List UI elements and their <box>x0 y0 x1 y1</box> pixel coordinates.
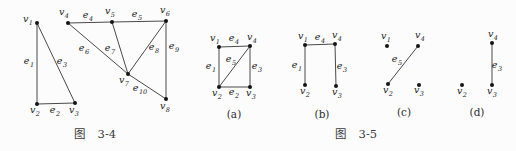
fig-3-5-vertex-v3 <box>417 83 421 87</box>
fig-3-5-vertex-v2 <box>460 83 464 87</box>
fig-3-5-vertex-v3 <box>248 85 252 89</box>
fig-3-5-vertex-v4 <box>248 44 252 48</box>
fig-3-4-edge-e3 <box>37 23 75 103</box>
fig-3-4-edge-e4 <box>68 22 112 23</box>
fig-3-4-edge-e8 <box>128 21 166 74</box>
fig-3-4-vertex-v6 <box>164 19 168 23</box>
fig-3-5-edge-e4 <box>219 46 250 47</box>
fig-3-5-vertex-v2 <box>303 83 307 87</box>
fig-3-5-vertex-v1 <box>217 45 221 49</box>
fig-3-5-vertex-v2 <box>386 82 390 86</box>
fig-3-4-edge-e10 <box>128 74 166 99</box>
fig-3-4-edge-e2 <box>37 103 75 104</box>
fig-3-4-edge-e6 <box>68 23 128 74</box>
textbook-figure-page: 图 3-4 图 3-5 (a) (b) (c) (d) e1e2e3e4e5e6… <box>0 0 516 151</box>
fig-3-5-edge-e4 <box>305 44 335 45</box>
fig-3-4-vertex-v1 <box>35 21 39 25</box>
fig-3-4-vertex-v7 <box>126 72 130 76</box>
fig-3-5-vertex-v1 <box>303 43 307 47</box>
fig-3-4-vertex-v4 <box>66 21 70 25</box>
fig-3-4-vertex-v2 <box>35 102 39 106</box>
fig-3-5-vertex-v2 <box>217 85 221 89</box>
fig-3-5-vertex-v3 <box>490 83 494 87</box>
fig-3-5-vertex-v4 <box>416 44 420 48</box>
fig-3-5-vertex-v1 <box>385 44 389 48</box>
fig-3-5-edge-e3 <box>335 44 336 86</box>
fig-3-5-edge-e5 <box>388 46 418 84</box>
fig-3-5-vertex-v4 <box>333 42 337 46</box>
fig-3-4-vertex-v5 <box>110 20 114 24</box>
fig-3-5-vertex-v3 <box>334 84 338 88</box>
fig-3-5-edge-e5 <box>219 46 250 87</box>
fig-3-4-edge-e5 <box>112 21 166 22</box>
fig-3-4-edge-e7 <box>112 22 128 74</box>
figure-canvas <box>0 0 516 151</box>
fig-3-4-vertex-v8 <box>164 97 168 101</box>
fig-3-5-vertex-v4 <box>490 41 494 45</box>
fig-3-4-vertex-v3 <box>73 101 77 105</box>
